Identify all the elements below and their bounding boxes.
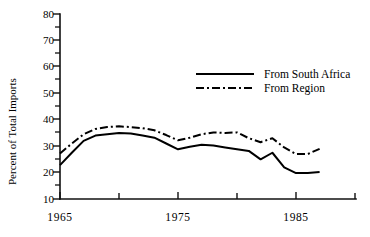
x-tick-label-1975: 1975 (165, 211, 190, 223)
y-tick-label-50: 50 (43, 87, 55, 99)
series-line-from-region (60, 126, 320, 154)
line-chart: Percent of Total Imports 80 70 60 50 40 … (0, 0, 370, 237)
y-tick-label-30: 30 (43, 140, 55, 152)
y-tick-marks (53, 14, 60, 199)
legend-label-from-south-africa: From South Africa (264, 68, 350, 80)
y-tick-label-40: 40 (43, 113, 55, 125)
y-tick-label-60: 60 (43, 60, 55, 72)
x-tick-label-1985: 1985 (283, 211, 308, 223)
y-tick-label-70: 70 (43, 34, 55, 46)
y-tick-label-80: 80 (43, 8, 55, 20)
y-axis-title: Percent of Total Imports (6, 78, 18, 185)
series-line-from-south-africa (60, 133, 320, 173)
x-tick-label-1965: 1965 (47, 211, 72, 223)
chart-figure: Percent of Total Imports 80 70 60 50 40 … (0, 0, 370, 237)
y-tick-label-20: 20 (43, 166, 55, 178)
x-tick-marks (60, 192, 355, 199)
y-tick-label-10: 10 (43, 193, 55, 205)
chart-legend: From South Africa From Region (196, 68, 350, 95)
legend-label-from-region: From Region (264, 82, 325, 95)
